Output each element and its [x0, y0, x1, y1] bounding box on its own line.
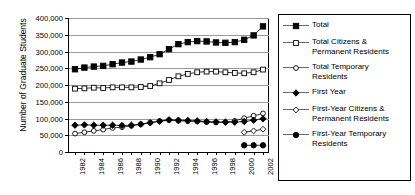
y-tick-label: 350,000	[36, 30, 63, 39]
x-tick-label: 1996	[210, 158, 219, 175]
x-tick-label: 1988	[134, 158, 143, 175]
x-tick-mark	[84, 152, 85, 155]
data-point-open-square	[110, 85, 115, 90]
series-group	[72, 24, 265, 72]
x-tick-label: 2000	[247, 158, 256, 175]
data-point-open-square	[232, 71, 237, 76]
x-tick-label: 1992	[172, 158, 181, 175]
data-point-filled-square	[232, 39, 237, 44]
data-point-open-square	[176, 74, 181, 79]
x-tick-mark	[263, 152, 264, 155]
data-point-open-square	[101, 86, 106, 91]
x-tick-label: 1984	[97, 158, 106, 175]
data-point-filled-square	[251, 33, 256, 38]
x-tick-mark	[150, 152, 151, 155]
x-tick-mark	[122, 152, 123, 155]
x-tick-mark	[169, 152, 170, 155]
y-tick-label: 200,000	[36, 81, 63, 90]
data-point-filled-circle	[260, 143, 265, 148]
data-point-filled-square	[204, 39, 209, 44]
x-tick-label: 1982	[78, 158, 87, 175]
data-point-open-square	[129, 85, 134, 90]
data-point-filled-diamond	[250, 117, 256, 123]
data-point-filled-diamond	[81, 122, 87, 128]
x-tick-mark	[103, 152, 104, 155]
data-point-filled-diamond	[293, 90, 299, 96]
x-tick-mark	[235, 152, 236, 155]
data-point-open-circle	[294, 66, 299, 71]
legend-item-label: First-Year Citizens & Permanent Resident…	[312, 104, 389, 123]
y-tick-label: 400,000	[36, 14, 63, 23]
data-point-open-diamond	[260, 126, 266, 132]
data-point-filled-square	[260, 24, 265, 29]
x-tick-mark	[197, 152, 198, 155]
data-point-filled-square	[176, 41, 181, 46]
data-point-open-square	[214, 69, 219, 74]
legend-item[interactable]: Total Temporary Residents	[283, 62, 406, 81]
x-tick-mark	[131, 152, 132, 155]
legend-marker-open-diamond-icon	[283, 104, 309, 115]
data-point-filled-diamond	[91, 122, 97, 128]
chart-figure: Number of Graduate Students 050,000100,0…	[0, 0, 415, 195]
y-tick-label: 50,000	[40, 131, 63, 140]
legend-item[interactable]: First-Year Citizens & Permanent Resident…	[283, 104, 406, 123]
data-point-open-circle	[73, 131, 78, 136]
x-tick-mark	[141, 152, 142, 155]
data-point-open-square	[138, 85, 143, 90]
y-tick-label: 250,000	[36, 64, 63, 73]
data-point-filled-diamond	[100, 122, 106, 128]
data-point-filled-square	[72, 67, 77, 72]
data-point-open-square	[167, 78, 172, 83]
x-tick-mark	[225, 152, 226, 155]
legend-marker-open-square-icon	[283, 37, 309, 48]
data-point-filled-square	[157, 51, 162, 56]
data-point-filled-diamond	[147, 120, 153, 126]
data-point-filled-square	[101, 63, 106, 68]
x-tick-mark	[216, 152, 217, 155]
x-tick-mark	[75, 152, 76, 155]
series-layer	[69, 18, 269, 152]
legend-item[interactable]: First-Year Temporary Residents	[283, 129, 406, 148]
legend-item-label: Total	[312, 20, 329, 30]
x-tick-label: 1994	[191, 158, 200, 175]
data-point-filled-circle	[293, 132, 298, 137]
data-point-open-square	[195, 70, 200, 75]
series-group	[72, 116, 266, 129]
data-point-open-square	[223, 70, 228, 75]
plot-area: 050,000100,000150,000200,000250,000300,0…	[68, 18, 269, 153]
x-tick-mark	[94, 152, 95, 155]
data-point-filled-diamond	[260, 116, 266, 122]
x-tick-mark	[254, 152, 255, 155]
legend-marker-filled-diamond-icon	[283, 87, 309, 98]
x-tick-label: 1998	[228, 158, 237, 175]
legend-item[interactable]: Total	[283, 20, 406, 31]
data-point-filled-square	[119, 60, 124, 65]
data-point-filled-square	[91, 64, 96, 69]
x-tick-mark	[188, 152, 189, 155]
data-point-filled-diamond	[156, 118, 162, 124]
data-point-filled-square	[213, 40, 218, 45]
legend-item[interactable]: First Year	[283, 87, 406, 98]
y-tick-label: 100,000	[36, 114, 63, 123]
legend-item-label: First Year	[312, 87, 346, 97]
y-tick-mark	[65, 152, 69, 153]
x-tick-label: 1990	[153, 158, 162, 175]
data-point-filled-square	[82, 65, 87, 70]
data-point-open-square	[73, 86, 78, 91]
data-point-filled-square	[293, 23, 298, 28]
data-point-open-square	[82, 86, 87, 91]
data-point-filled-circle	[242, 143, 247, 148]
legend-item-label: Total Citizens & Permanent Residents	[312, 37, 389, 56]
data-point-open-square	[120, 85, 125, 90]
data-point-filled-square	[195, 38, 200, 43]
y-axis-title: Number of Graduate Students	[18, 0, 28, 150]
legend-item[interactable]: Total Citizens & Permanent Residents	[283, 37, 406, 56]
data-point-open-diamond	[241, 129, 247, 135]
series-group	[241, 126, 266, 135]
x-tick-label: 2002	[266, 158, 275, 175]
data-point-open-square	[91, 85, 96, 90]
x-tick-mark	[178, 152, 179, 155]
data-point-open-square	[261, 67, 266, 72]
data-point-open-circle	[82, 130, 87, 135]
series-group	[242, 143, 266, 148]
